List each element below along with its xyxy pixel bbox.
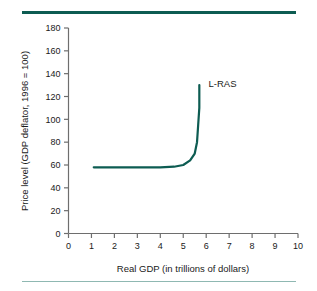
annotations-group: L-RAS	[208, 78, 236, 89]
y-tick-label: 160	[45, 46, 60, 56]
y-tick-label: 60	[50, 160, 60, 170]
y-tick-label: 180	[45, 23, 60, 33]
x-ticklabels: 012345678910	[66, 241, 303, 251]
y-tick-label: 120	[45, 92, 60, 102]
y-ticks	[64, 28, 69, 234]
series-label-lras: L-RAS	[208, 78, 236, 89]
y-axis-title: Price level (GDP deflator, 1996 = 100)	[19, 51, 30, 211]
x-tick-label: 7	[227, 241, 232, 251]
series-group	[94, 85, 200, 167]
lras-curve	[94, 85, 200, 167]
y-ticklabels: 020406080100120140160180	[45, 23, 60, 239]
y-tick-label: 80	[50, 137, 60, 147]
x-tick-label: 10	[293, 241, 303, 251]
y-tick-label: 20	[50, 206, 60, 216]
y-axis: 020406080100120140160180	[45, 23, 68, 239]
figure-container: 020406080100120140160180 012345678910 L-…	[0, 0, 317, 291]
x-tick-label: 5	[181, 241, 186, 251]
x-axis: 012345678910	[66, 234, 303, 251]
x-axis-title: Real GDP (in trillions of dollars)	[117, 263, 249, 274]
x-tick-label: 3	[135, 241, 140, 251]
x-tick-label: 8	[250, 241, 255, 251]
x-tick-label: 6	[204, 241, 209, 251]
y-tick-label: 140	[45, 69, 60, 79]
x-tick-label: 4	[158, 241, 163, 251]
y-tick-label: 0	[55, 229, 60, 239]
x-tick-label: 2	[112, 241, 117, 251]
x-tick-label: 0	[66, 241, 71, 251]
y-tick-label: 100	[45, 115, 60, 125]
chart-canvas: 020406080100120140160180 012345678910 L-…	[0, 0, 317, 291]
x-tick-label: 9	[273, 241, 278, 251]
x-tick-label: 1	[89, 241, 94, 251]
y-tick-label: 40	[50, 183, 60, 193]
x-ticks	[69, 234, 299, 239]
